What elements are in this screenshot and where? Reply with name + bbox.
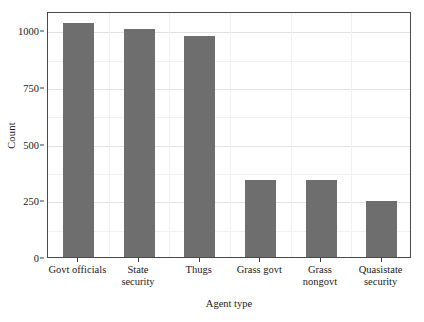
bar (245, 180, 276, 257)
gridline-horizontal-minor (48, 174, 410, 175)
y-axis-tick-mark (40, 31, 44, 32)
bar (306, 180, 337, 257)
y-axis-tick-label: 250 (23, 196, 39, 207)
gridline-vertical-minor (109, 13, 110, 257)
bar (124, 29, 155, 257)
y-axis-tick-mark (40, 87, 44, 88)
y-axis-title-text: Count (6, 122, 17, 149)
bar (184, 36, 215, 257)
gridline-horizontal-minor (48, 61, 410, 62)
gridline-vertical-minor (169, 13, 170, 257)
plot-panel (47, 12, 411, 258)
x-axis-tick-mark (199, 258, 200, 262)
y-axis-tick-label: 750 (23, 82, 39, 93)
y-axis-tick-label: 1000 (18, 26, 39, 37)
x-axis-tick-mark (259, 258, 260, 262)
gridline-vertical-minor (291, 13, 292, 257)
gridline-horizontal-minor (48, 231, 410, 232)
x-axis-tick-mark (381, 258, 382, 262)
bar (366, 201, 397, 257)
y-axis-tick-mark (40, 258, 44, 259)
gridline-vertical-minor (230, 13, 231, 257)
x-axis-title: Agent type (47, 298, 411, 309)
gridline-vertical-minor (351, 13, 352, 257)
x-axis-tick-label: Quasistate security (345, 264, 417, 288)
gridline-horizontal (48, 32, 410, 33)
y-axis-tick-mark (40, 201, 44, 202)
gridline-horizontal (48, 89, 410, 90)
y-axis-tick-labels: 02505007501000 (18, 12, 44, 258)
x-axis-tick-labels: Govt officialsState securityThugsGrass g… (47, 258, 411, 298)
bar (63, 23, 94, 257)
gridline-horizontal (48, 202, 410, 203)
gridline-horizontal (48, 146, 410, 147)
x-axis-tick-mark (77, 258, 78, 262)
gridline-horizontal-minor (48, 117, 410, 118)
y-axis-tick-label: 500 (23, 139, 39, 150)
y-axis-tick-label: 0 (34, 253, 39, 264)
x-axis-tick-mark (138, 258, 139, 262)
bar-chart: Count 02505007501000 Govt officialsState… (0, 0, 424, 322)
x-axis-tick-mark (320, 258, 321, 262)
y-axis-tick-mark (40, 144, 44, 145)
